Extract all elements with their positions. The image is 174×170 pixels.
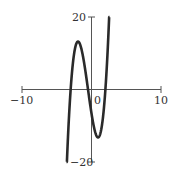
x-label-min: −10: [10, 95, 33, 106]
y-label-max: 20: [72, 12, 86, 23]
chart-plot: [0, 0, 174, 170]
x-label-max: 10: [154, 95, 168, 106]
y-label-min: −20: [70, 157, 93, 168]
x-label-zero: 0: [94, 95, 101, 106]
axes: [22, 17, 161, 162]
